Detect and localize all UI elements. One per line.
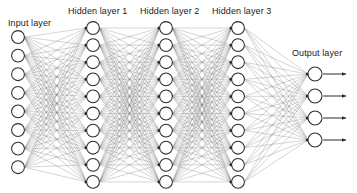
connection-edge	[244, 28, 308, 96]
hidden-layer-1-node-6	[87, 107, 100, 120]
hidden-layer-1-node-5	[87, 90, 100, 103]
output-layer-node-1	[308, 67, 322, 81]
hidden-layer-2-node-9	[160, 158, 173, 171]
hidden-layer-3-node-9	[232, 158, 245, 171]
hidden-layer-2-node-3	[160, 56, 173, 69]
connection-edge	[24, 130, 86, 165]
hidden-layer-3-node-2	[232, 39, 245, 52]
connection-edge	[24, 130, 86, 182]
connection-edge	[24, 28, 86, 56]
label-output-layer: Output layer	[292, 48, 342, 58]
hidden-layer-3-node-7	[232, 124, 245, 137]
hidden-layer-2-node-5	[160, 90, 173, 103]
connection-edge	[244, 96, 308, 182]
connection-edge	[24, 111, 86, 130]
hidden-layer-1-node-8	[87, 141, 100, 154]
connection-edge	[24, 130, 86, 148]
connection-edge	[24, 45, 86, 56]
label-hidden-layer-1: Hidden layer 1	[68, 6, 127, 16]
label-hidden-layer-3: Hidden layer 3	[212, 6, 271, 16]
connection-edge	[244, 118, 308, 165]
connection-edge	[24, 37, 86, 182]
hidden-layer-3-node-6	[232, 107, 245, 120]
label-hidden-layer-2: Hidden layer 2	[140, 6, 199, 16]
connection-edge	[244, 62, 308, 74]
connection-edge	[24, 167, 86, 182]
input-layer-node-8	[12, 161, 25, 174]
hidden-layer-2-node-6	[160, 107, 173, 120]
connection-edge	[24, 79, 86, 93]
output-layer-node-3	[308, 111, 322, 125]
connection-edge	[244, 28, 308, 140]
hidden-layer-2-node-1	[160, 22, 173, 35]
hidden-layer-2-node-10	[160, 176, 173, 189]
input-layer-node-4	[12, 86, 25, 99]
input-layer-node-5	[12, 105, 25, 118]
connection-edge	[244, 45, 308, 140]
connection-edge	[24, 37, 86, 45]
input-layer-node-7	[12, 142, 25, 155]
hidden-layer-3-node-8	[232, 141, 245, 154]
connection-edge	[244, 96, 308, 165]
connection-edge	[244, 118, 308, 131]
hidden-layer-1-node-2	[87, 39, 100, 52]
hidden-layer-3-node-10	[232, 176, 245, 189]
connection-edge	[24, 114, 86, 168]
connection-edge	[24, 28, 86, 37]
connection-edge	[24, 148, 86, 168]
connection-edge	[244, 96, 308, 148]
output-layer-node-4	[308, 133, 322, 147]
label-input-layer: Input layer	[8, 18, 51, 28]
input-layer-node-3	[12, 68, 25, 81]
hidden-layer-1-node-9	[87, 158, 100, 171]
hidden-layer-1-node-10	[87, 176, 100, 189]
connection-edge	[244, 96, 308, 140]
hidden-layer-2-node-2	[160, 39, 173, 52]
hidden-layer-2-node-4	[160, 73, 173, 86]
connection-edge	[244, 118, 308, 148]
hidden-layer-1-node-1	[87, 22, 100, 35]
hidden-layer-1-node-3	[87, 56, 100, 69]
connection-edge	[24, 28, 86, 167]
connection-edge	[244, 131, 308, 140]
connection-edge	[244, 28, 308, 118]
input-layer-node-6	[12, 124, 25, 137]
hidden-layer-3-node-1	[232, 22, 245, 35]
hidden-layer-1-node-4	[87, 73, 100, 86]
hidden-layer-3-node-4	[232, 73, 245, 86]
network-canvas	[0, 0, 357, 193]
connection-edge	[244, 74, 308, 131]
neural-network-diagram: Input layer Hidden layer 1 Hidden layer …	[0, 0, 357, 193]
hidden-layer-2-node-8	[160, 141, 173, 154]
input-layer-node-2	[12, 49, 25, 62]
hidden-layer-3-node-3	[232, 56, 245, 69]
connection-edge	[244, 74, 308, 114]
connection-edge	[24, 79, 86, 111]
output-layer-node-2	[308, 89, 322, 103]
hidden-layer-3-node-5	[232, 90, 245, 103]
hidden-layer-1-node-7	[87, 124, 100, 137]
input-layer-node-1	[12, 31, 25, 44]
connection-edge	[24, 74, 86, 113]
output-arrows	[323, 74, 346, 140]
connection-edge	[244, 118, 308, 182]
connection-edge	[24, 45, 86, 93]
hidden-layer-2-node-7	[160, 124, 173, 137]
connection-edge	[244, 74, 308, 79]
